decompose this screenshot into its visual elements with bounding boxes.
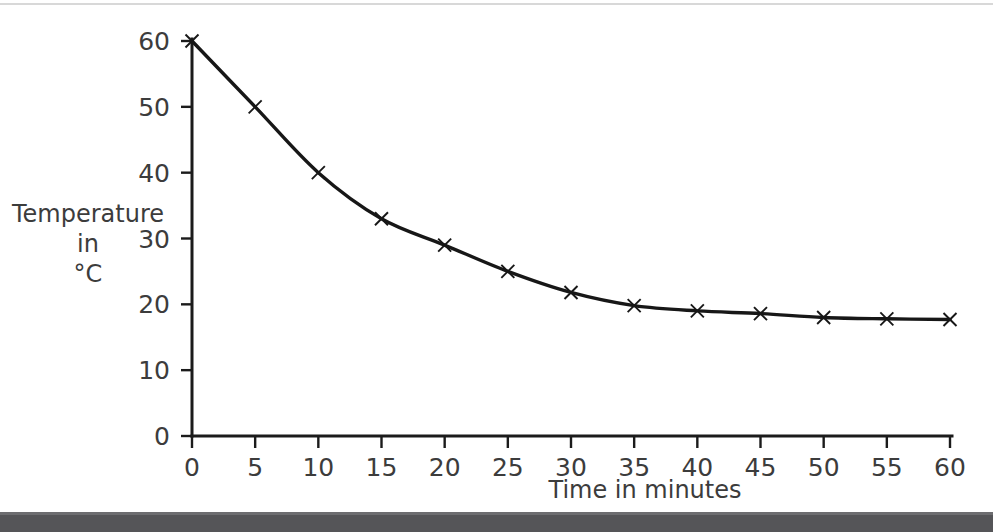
x-tick-label: 25 bbox=[492, 453, 524, 482]
data-point-marker bbox=[249, 100, 262, 113]
x-tick-label: 60 bbox=[934, 453, 966, 482]
cooling-curve-chart: 0102030405060 051015202530354045505560 T… bbox=[0, 0, 993, 512]
y-tick-label: 10 bbox=[138, 356, 170, 385]
x-tick-label: 50 bbox=[808, 453, 840, 482]
y-tick-label: 40 bbox=[138, 159, 170, 188]
temperature-series-markers bbox=[186, 35, 957, 326]
y-tick-label: 30 bbox=[138, 225, 170, 254]
x-tick-label: 45 bbox=[745, 453, 777, 482]
x-tick-label: 15 bbox=[366, 453, 398, 482]
y-tick-labels: 0102030405060 bbox=[138, 27, 170, 451]
temperature-series-line bbox=[192, 41, 950, 319]
data-point-marker bbox=[438, 239, 451, 252]
y-axis-title-line: in bbox=[77, 230, 99, 258]
y-tick-label: 0 bbox=[154, 422, 170, 451]
x-axis-title-label: Time in minutes bbox=[547, 476, 741, 504]
bottom-banner-highlight bbox=[0, 512, 993, 515]
x-tick-label: 10 bbox=[302, 453, 334, 482]
x-tick-label: 0 bbox=[184, 453, 200, 482]
x-tick-label: 55 bbox=[871, 453, 903, 482]
y-tick-label: 50 bbox=[138, 93, 170, 122]
chart-svg: 0102030405060 051015202530354045505560 T… bbox=[0, 0, 993, 512]
x-axis bbox=[192, 436, 952, 448]
x-tick-label: 5 bbox=[247, 453, 263, 482]
figure-page: 0102030405060 051015202530354045505560 T… bbox=[0, 0, 993, 532]
bottom-banner-bar bbox=[0, 512, 993, 532]
y-axis bbox=[181, 39, 192, 436]
data-point-marker bbox=[375, 212, 388, 225]
y-tick-label: 20 bbox=[138, 290, 170, 319]
data-point-marker bbox=[312, 166, 325, 179]
x-tick-label: 20 bbox=[429, 453, 461, 482]
y-axis-title-line: °C bbox=[74, 260, 103, 288]
y-tick-label: 60 bbox=[138, 27, 170, 56]
y-axis-title-line: Temperature bbox=[11, 200, 164, 228]
